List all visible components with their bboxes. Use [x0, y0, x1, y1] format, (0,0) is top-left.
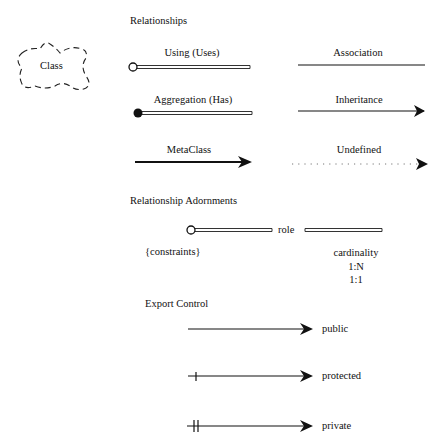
class-label: Class — [40, 61, 63, 72]
aggregation-label: Aggregation (Has) — [154, 95, 232, 106]
relationships-heading: Relationships — [130, 16, 187, 27]
metaclass-label: MetaClass — [167, 145, 211, 156]
cardinality-value: 1:1 — [349, 275, 362, 286]
association-label: Association — [333, 48, 383, 59]
inheritance-relationship-icon — [298, 105, 425, 117]
private-export-icon — [187, 420, 313, 432]
aggregation-relationship-icon — [134, 109, 253, 118]
inheritance-label: Inheritance — [335, 95, 382, 106]
protected-export-icon — [188, 370, 313, 382]
cardinality-value: 1:N — [348, 262, 364, 273]
public-export-icon — [188, 323, 313, 335]
constraints-label: {constraints} — [145, 247, 201, 258]
diagram-canvas — [0, 0, 442, 438]
private-label: private — [322, 421, 351, 432]
undefined-label: Undefined — [337, 145, 381, 156]
export-control-heading: Export Control — [145, 299, 208, 310]
protected-label: protected — [322, 371, 361, 382]
adornments-heading: Relationship Adornments — [130, 196, 237, 207]
public-label: public — [322, 324, 348, 335]
cardinality-label: cardinality — [334, 248, 379, 259]
metaclass-relationship-icon — [135, 156, 252, 168]
using-label: Using (Uses) — [164, 48, 219, 59]
undefined-relationship-icon — [292, 158, 428, 170]
using-relationship-icon — [129, 63, 250, 71]
role-label: role — [278, 225, 294, 236]
